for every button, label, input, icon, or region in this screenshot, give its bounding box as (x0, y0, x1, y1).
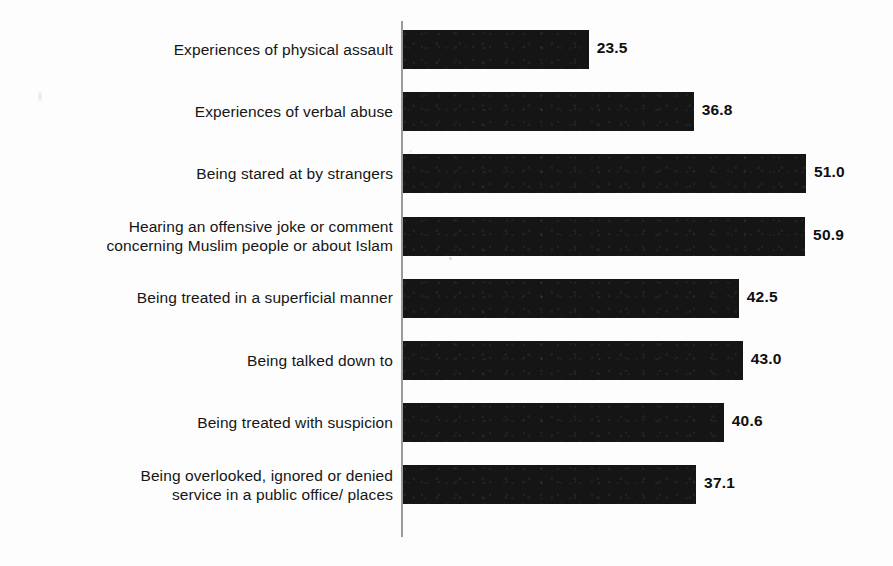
bar-value-label: 51.0 (814, 163, 845, 181)
bar-row: Being treated with suspicion40.6 (0, 403, 893, 442)
bar-category-label: Hearing an offensive joke or comment con… (13, 217, 393, 255)
bar-category-label: Being treated with suspicion (13, 413, 393, 432)
bar (403, 154, 806, 193)
bar-row: Experiences of physical assault23.5 (0, 30, 893, 69)
bar-value-label: 23.5 (597, 39, 628, 57)
bar-value-label: 40.6 (732, 412, 763, 430)
bar-value-label: 50.9 (813, 226, 844, 244)
plot-area: Experiences of physical assault23.5Exper… (0, 0, 893, 566)
bar-value-label: 43.0 (751, 350, 782, 368)
bar-value-label: 37.1 (704, 474, 735, 492)
bar-category-label: Experiences of physical assault (13, 40, 393, 59)
bar-category-label: Experiences of verbal abuse (13, 102, 393, 121)
bar (403, 403, 724, 442)
bar-value-label: 42.5 (747, 288, 778, 306)
bar (403, 217, 805, 256)
bar (403, 465, 696, 504)
bar-row: Being stared at by strangers51.0 (0, 154, 893, 193)
bar-row: Being talked down to43.0 (0, 341, 893, 380)
bar-category-label: Being stared at by strangers (13, 164, 393, 183)
bar (403, 92, 694, 131)
bar-category-label: Being overlooked, ignored or denied serv… (13, 466, 393, 504)
bar-row: Being overlooked, ignored or denied serv… (0, 465, 893, 504)
bar-row: Hearing an offensive joke or comment con… (0, 217, 893, 256)
bar (403, 30, 589, 69)
bar-category-label: Being talked down to (13, 351, 393, 370)
bar-row: Being treated in a superficial manner42.… (0, 279, 893, 318)
bar (403, 279, 739, 318)
horizontal-bar-chart: Experiences of physical assault23.5Exper… (0, 0, 893, 566)
bar (403, 341, 743, 380)
bar-row: Experiences of verbal abuse36.8 (0, 92, 893, 131)
bar-category-label: Being treated in a superficial manner (13, 288, 393, 307)
bar-value-label: 36.8 (702, 101, 733, 119)
